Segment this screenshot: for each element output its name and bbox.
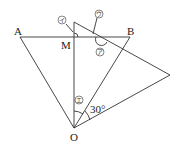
segment-PQ <box>74 22 170 75</box>
label-i: イ <box>59 17 65 23</box>
leader-i <box>66 24 73 32</box>
geometry-diagram: A B M O イ ウ ア エ 30° <box>0 0 175 146</box>
angle-arc-e <box>74 111 83 114</box>
angle-arc-i <box>74 33 78 37</box>
label-O: O <box>70 131 78 143</box>
label-M: M <box>61 39 71 51</box>
label-30: 30° <box>90 103 105 115</box>
segment-QO <box>74 75 170 128</box>
label-a: ア <box>97 49 103 55</box>
label-e: エ <box>76 97 82 103</box>
label-B: B <box>127 25 134 37</box>
angle-arc-a <box>95 37 107 46</box>
label-u: ウ <box>96 10 102 17</box>
leader-u <box>93 18 97 34</box>
label-A: A <box>14 25 22 37</box>
